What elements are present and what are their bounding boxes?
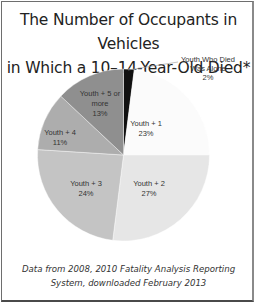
label-youth-plus-1-pct: 23% [138, 129, 153, 138]
label-youth-plus-5-pct: 13% [92, 109, 107, 118]
source-note-line-1: Data from 2008, 2010 Fatality Analysis R… [0, 262, 257, 276]
label-youth-plus-5-name-1: Youth + 5 or [80, 89, 121, 98]
pie-chart: Youth Who Died Was Alone 2% Youth + 1 23… [0, 0, 257, 306]
label-alone-name-2: Was Alone [190, 64, 226, 73]
label-youth-plus-4-pct: 11% [53, 138, 68, 147]
label-youth-plus-3-name: Youth + 3 [70, 179, 102, 188]
label-youth-plus-2-pct: 27% [141, 189, 156, 198]
label-alone-pct: 2% [203, 73, 214, 82]
label-alone-name-1: Youth Who Died [181, 55, 235, 64]
pie-slices [38, 69, 210, 241]
label-youth-plus-2-name: Youth + 2 [133, 179, 165, 188]
label-youth-plus-5-name-2: more [91, 99, 108, 108]
label-youth-plus-3-pct: 24% [78, 189, 93, 198]
source-note: Data from 2008, 2010 Fatality Analysis R… [0, 262, 257, 290]
slice-youth-plus-1 [124, 70, 210, 155]
label-alone: Youth Who Died Was Alone 2% [181, 55, 235, 82]
label-youth-plus-1-name: Youth + 1 [130, 119, 162, 128]
label-youth-plus-4-name: Youth + 4 [44, 128, 76, 137]
leader-line [128, 62, 178, 70]
slice-youth-plus-2 [113, 155, 210, 241]
source-note-line-2: System, downloaded February 2013 [0, 276, 257, 290]
